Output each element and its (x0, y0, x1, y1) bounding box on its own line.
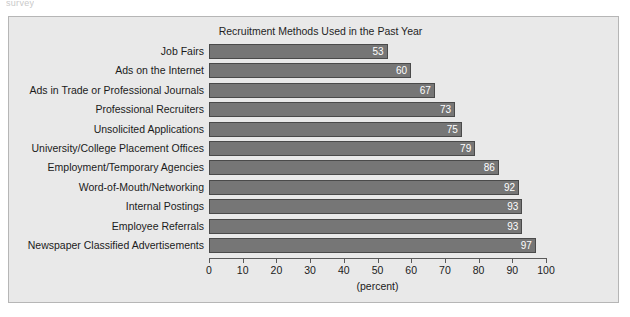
bar-row: Unsolicited Applications75 (9, 121, 618, 140)
bar-value-label: 86 (484, 161, 495, 174)
bar: 86 (209, 160, 499, 175)
bar-value-label: 73 (440, 103, 451, 116)
bar-row: Ads in Trade or Professional Journals67 (9, 82, 618, 101)
bar-row: Word-of-Mouth/Networking92 (9, 179, 618, 198)
x-axis-label: (percent) (209, 280, 546, 292)
bar-row: Professional Recruiters73 (9, 101, 618, 120)
bar-category-label: Job Fairs (161, 45, 204, 57)
x-axis-tick (445, 258, 446, 263)
bar-value-label: 97 (521, 239, 532, 252)
bar-value-label: 67 (420, 84, 431, 97)
bar-value-label: 53 (372, 45, 383, 58)
bar-value-label: 60 (396, 64, 407, 77)
x-axis-tick (512, 258, 513, 263)
x-axis-tick (546, 258, 547, 263)
bar: 93 (209, 199, 522, 214)
x-axis-tick (310, 258, 311, 263)
bar-row: Ads on the Internet60 (9, 62, 618, 81)
bar-row: University/College Placement Offices79 (9, 140, 618, 159)
bar-row: Newspaper Classified Advertisements97 (9, 237, 618, 256)
page-top-text-fragment: survey (6, 0, 34, 8)
bar-row: Employee Referrals93 (9, 218, 618, 237)
bar-value-label: 93 (507, 200, 518, 213)
x-axis-tick (276, 258, 277, 263)
x-axis-tick (479, 258, 480, 263)
x-axis-tick-label: 100 (537, 264, 555, 276)
bar: 53 (209, 44, 388, 59)
bar-chart-plot-area: Job Fairs53Ads on the Internet60Ads in T… (9, 17, 618, 302)
bar-category-label: Employment/Temporary Agencies (48, 161, 204, 173)
x-axis-tick (378, 258, 379, 263)
x-axis-tick (344, 258, 345, 263)
bar-row: Job Fairs53 (9, 43, 618, 62)
bar: 75 (209, 122, 462, 137)
x-axis-tick-label: 40 (338, 264, 350, 276)
bar-value-label: 92 (504, 181, 515, 194)
bar-row: Internal Postings93 (9, 198, 618, 217)
bar: 60 (209, 63, 411, 78)
bar: 79 (209, 141, 475, 156)
bar-value-label: 79 (460, 142, 471, 155)
bar-value-label: 93 (507, 220, 518, 233)
x-axis-tick-label: 50 (372, 264, 384, 276)
x-axis-tick-label: 10 (237, 264, 249, 276)
x-axis-tick (243, 258, 244, 263)
bar: 73 (209, 102, 455, 117)
bar-category-label: Ads in Trade or Professional Journals (29, 84, 204, 96)
x-axis-tick-label: 0 (206, 264, 212, 276)
x-axis-tick-label: 30 (304, 264, 316, 276)
bar: 97 (209, 238, 536, 253)
bar-category-label: Unsolicited Applications (94, 123, 204, 135)
bar: 67 (209, 83, 435, 98)
bar-category-label: Ads on the Internet (115, 64, 204, 76)
bar-category-label: Internal Postings (126, 200, 204, 212)
x-axis-tick-label: 20 (271, 264, 283, 276)
x-axis-tick-label: 60 (405, 264, 417, 276)
x-axis-tick (411, 258, 412, 263)
x-axis-tick (209, 258, 210, 263)
bar-row: Employment/Temporary Agencies86 (9, 159, 618, 178)
bar-category-label: Newspaper Classified Advertisements (28, 239, 204, 251)
bar-category-label: Professional Recruiters (95, 103, 204, 115)
bar: 93 (209, 219, 522, 234)
bar-category-label: Employee Referrals (112, 220, 204, 232)
chart-figure-frame: Recruitment Methods Used in the Past Yea… (8, 16, 619, 303)
bar-category-label: University/College Placement Offices (31, 142, 204, 154)
bar-category-label: Word-of-Mouth/Networking (79, 181, 204, 193)
bar-value-label: 75 (447, 123, 458, 136)
x-axis-tick-label: 70 (439, 264, 451, 276)
x-axis-tick-label: 80 (473, 264, 485, 276)
bar: 92 (209, 180, 519, 195)
x-axis-tick-label: 90 (506, 264, 518, 276)
